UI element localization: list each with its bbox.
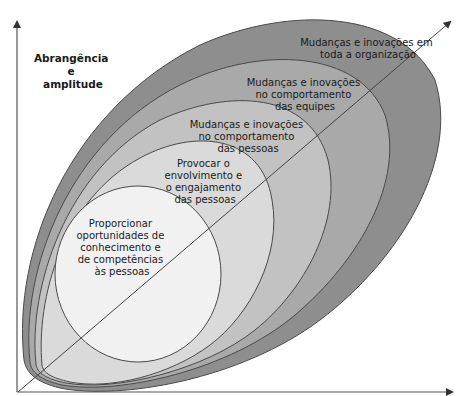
label-line: das pessoas	[174, 194, 235, 205]
label-line: Mudanças e inovações	[190, 119, 303, 130]
label-line: das pessoas	[217, 143, 278, 154]
label-line: Provocar o	[177, 158, 230, 169]
label-line: oportunidades de	[76, 230, 164, 241]
label-line: Proporcionar	[89, 218, 153, 229]
label-line: das equipes	[275, 101, 335, 112]
label-line: o engajamento	[166, 182, 241, 193]
label-line: envolvimento e	[165, 170, 243, 181]
y-axis-label: Abrangência e amplitude	[34, 52, 112, 90]
label-line: toda a organização	[320, 49, 416, 60]
nested-layers	[22, 20, 440, 391]
label-line: de competências	[78, 254, 164, 265]
label-line: conhecimento e	[80, 242, 160, 253]
diagram-canvas: Abrangência e amplitude Mudanças e inova…	[0, 0, 466, 396]
y-axis-label-line: e	[68, 65, 75, 77]
y-axis-label-line: amplitude	[43, 78, 103, 90]
label-line: no comportamento	[255, 89, 351, 100]
label-line: Mudanças e inovações em	[300, 37, 432, 48]
label-organizacao: Mudanças e inovações em toda a organizaç…	[300, 37, 436, 60]
label-line: Mudanças e inovações	[247, 77, 360, 88]
label-line: às pessoas	[95, 266, 150, 277]
y-axis-label-line: Abrangência	[34, 52, 108, 64]
label-line: no comportamento	[198, 131, 294, 142]
